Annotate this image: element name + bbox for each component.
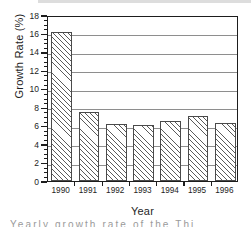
plot-area <box>47 16 238 182</box>
y-tick-label-0: 0 <box>34 178 39 187</box>
x-boundary-tick <box>156 182 157 186</box>
x-boundary-tick <box>74 182 75 186</box>
bar-1991 <box>79 112 100 181</box>
bar-1993 <box>133 125 154 181</box>
gridline-16 <box>48 35 237 36</box>
y-tick-label-10: 10 <box>30 85 39 94</box>
bar-1994 <box>160 121 181 181</box>
x-boundary-tick <box>211 182 212 186</box>
page-caption-cutoff: Yearly growth rate of the Thi <box>10 219 251 227</box>
x-tick-label-1996: 1996 <box>211 187 238 195</box>
x-boundary-tick <box>102 182 103 186</box>
bar-1990 <box>51 32 72 181</box>
y-tick-label-14: 14 <box>30 48 39 57</box>
y-tick-label-8: 8 <box>34 104 39 113</box>
bar-1995 <box>188 116 209 181</box>
x-axis-title: Year <box>47 205 238 217</box>
x-tick-label-1993: 1993 <box>129 187 156 195</box>
x-tick-label-1992: 1992 <box>102 187 129 195</box>
x-tick-label-1994: 1994 <box>156 187 183 195</box>
y-tick-label-12: 12 <box>30 67 39 76</box>
y-tick-label-2: 2 <box>34 159 39 168</box>
y-tick-label-4: 4 <box>34 141 39 150</box>
bar-1992 <box>106 124 127 181</box>
y-axis-title: Growth Rate (%) <box>13 0 25 116</box>
y-tick-label-18: 18 <box>30 12 39 21</box>
y-tick-label-16: 16 <box>30 30 39 39</box>
y-tick-label-6: 6 <box>34 122 39 131</box>
scan-artifact-bar <box>38 0 251 3</box>
gridline-14 <box>48 54 237 55</box>
x-tick-label-1991: 1991 <box>74 187 101 195</box>
gridline-12 <box>48 72 237 73</box>
x-boundary-tick <box>129 182 130 186</box>
x-tick-label-1995: 1995 <box>183 187 210 195</box>
bar-1996 <box>215 123 236 181</box>
gridline-10 <box>48 91 237 92</box>
x-tick-label-1990: 1990 <box>47 187 74 195</box>
x-boundary-tick <box>183 182 184 186</box>
figure-container: Growth Rate (%) 024681012141618 19901991… <box>0 0 251 227</box>
gridline-8 <box>48 109 237 110</box>
